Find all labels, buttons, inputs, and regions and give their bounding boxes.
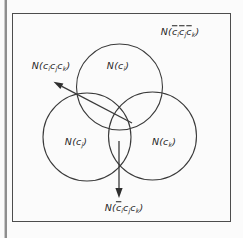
label-set-i: N(ci) (107, 61, 129, 71)
label-outside-region: N(cicjck) (161, 27, 200, 37)
arrow-to-triple-intersection (54, 82, 133, 123)
arrowhead-upleft-icon (54, 82, 64, 89)
figure-canvas: N(cicjck) N(cicjck) N(ci) N(cj) N(ck) N(… (0, 0, 243, 238)
label-triple-intersection: N(cicjck) (32, 61, 71, 71)
label-jk-without-i: N(cicjck) (105, 203, 144, 213)
label-set-j: N(cj) (65, 137, 87, 147)
arrowhead-down-icon (115, 188, 122, 198)
label-set-k: N(ck) (152, 137, 176, 147)
